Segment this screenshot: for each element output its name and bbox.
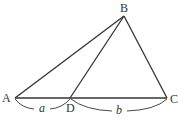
segment-bd (70, 16, 124, 98)
triangle-diagram: B A C D a b (0, 0, 184, 123)
measure-label-b: b (116, 103, 122, 117)
point-label-d: D (66, 101, 75, 115)
segment-bc (124, 16, 167, 98)
point-label-c: C (170, 92, 178, 106)
segment-ab (15, 16, 124, 98)
point-label-a: A (2, 91, 11, 105)
point-label-b: B (120, 1, 128, 15)
measure-label-a: a (39, 101, 45, 115)
